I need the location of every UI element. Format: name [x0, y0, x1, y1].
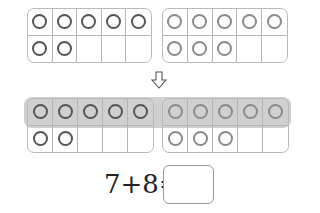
- frame-cell: [163, 99, 188, 126]
- frame-cell: [53, 99, 78, 126]
- counter-circle-icon: [218, 131, 233, 146]
- frame-cell: [102, 9, 127, 36]
- frame-cell: [213, 99, 238, 126]
- frame-cell: [238, 99, 263, 126]
- counter-circle-icon: [267, 14, 282, 29]
- counter-circle-icon: [217, 14, 232, 29]
- frame-cell: [103, 99, 128, 126]
- ten-frame-top-left: [27, 8, 152, 63]
- frame-cell: [263, 99, 288, 126]
- counter-circle-icon: [168, 131, 183, 146]
- counter-circle-icon: [108, 104, 123, 119]
- counter-circle-icon: [33, 131, 48, 146]
- ten-frame-top-right: [162, 8, 288, 63]
- frame-cell: [213, 9, 238, 36]
- frame-cell: [237, 9, 262, 36]
- frame-cell: [77, 9, 102, 36]
- counter-circle-icon: [168, 104, 183, 119]
- answer-box[interactable]: [163, 165, 214, 204]
- frame-cell: [263, 126, 288, 153]
- counter-circle-icon: [58, 131, 73, 146]
- counter-circle-icon: [193, 131, 208, 146]
- frame-cell: [77, 36, 102, 63]
- frame-cell: [213, 126, 238, 153]
- frame-cell: [28, 36, 53, 63]
- counter-circle-icon: [58, 104, 73, 119]
- counter-circle-icon: [57, 14, 72, 29]
- counter-circle-icon: [268, 104, 283, 119]
- frame-cell: [103, 126, 128, 153]
- frame-cell: [262, 36, 287, 63]
- counter-circle-icon: [243, 104, 258, 119]
- frame-cell: [28, 9, 53, 36]
- frame-cell: [237, 36, 262, 63]
- frame-cell: [188, 99, 213, 126]
- counter-circle-icon: [106, 14, 121, 29]
- frame-cell: [238, 126, 263, 153]
- counter-circle-icon: [32, 14, 47, 29]
- frame-cell: [28, 126, 53, 153]
- counter-circle-icon: [133, 104, 148, 119]
- counter-circle-icon: [242, 14, 257, 29]
- ten-frame-bottom-right: [162, 98, 289, 153]
- frame-cell: [128, 126, 153, 153]
- frame-cell: [78, 126, 103, 153]
- counter-circle-icon: [167, 14, 182, 29]
- counter-circle-icon: [192, 14, 207, 29]
- ten-frame-bottom-left: [27, 98, 154, 153]
- frame-cell: [53, 9, 78, 36]
- frame-cell: [163, 9, 188, 36]
- counter-circle-icon: [218, 104, 233, 119]
- frame-cell: [126, 36, 151, 63]
- counter-circle-icon: [33, 104, 48, 119]
- counter-circle-icon: [32, 41, 47, 56]
- frame-cell: [53, 36, 78, 63]
- frame-cell: [188, 36, 213, 63]
- frame-cell: [188, 126, 213, 153]
- frame-cell: [78, 99, 103, 126]
- counter-circle-icon: [217, 41, 232, 56]
- counter-circle-icon: [193, 104, 208, 119]
- counter-circle-icon: [192, 41, 207, 56]
- frame-cell: [126, 9, 151, 36]
- frame-cell: [262, 9, 287, 36]
- frame-cell: [28, 99, 53, 126]
- counter-circle-icon: [83, 104, 98, 119]
- down-arrow-icon: [151, 71, 167, 89]
- frame-cell: [188, 9, 213, 36]
- counter-circle-icon: [81, 14, 96, 29]
- frame-cell: [102, 36, 127, 63]
- frame-cell: [53, 126, 78, 153]
- frame-cell: [128, 99, 153, 126]
- frame-cell: [163, 36, 188, 63]
- counter-circle-icon: [131, 14, 146, 29]
- counter-circle-icon: [57, 41, 72, 56]
- frame-cell: [213, 36, 238, 63]
- counter-circle-icon: [167, 41, 182, 56]
- frame-cell: [163, 126, 188, 153]
